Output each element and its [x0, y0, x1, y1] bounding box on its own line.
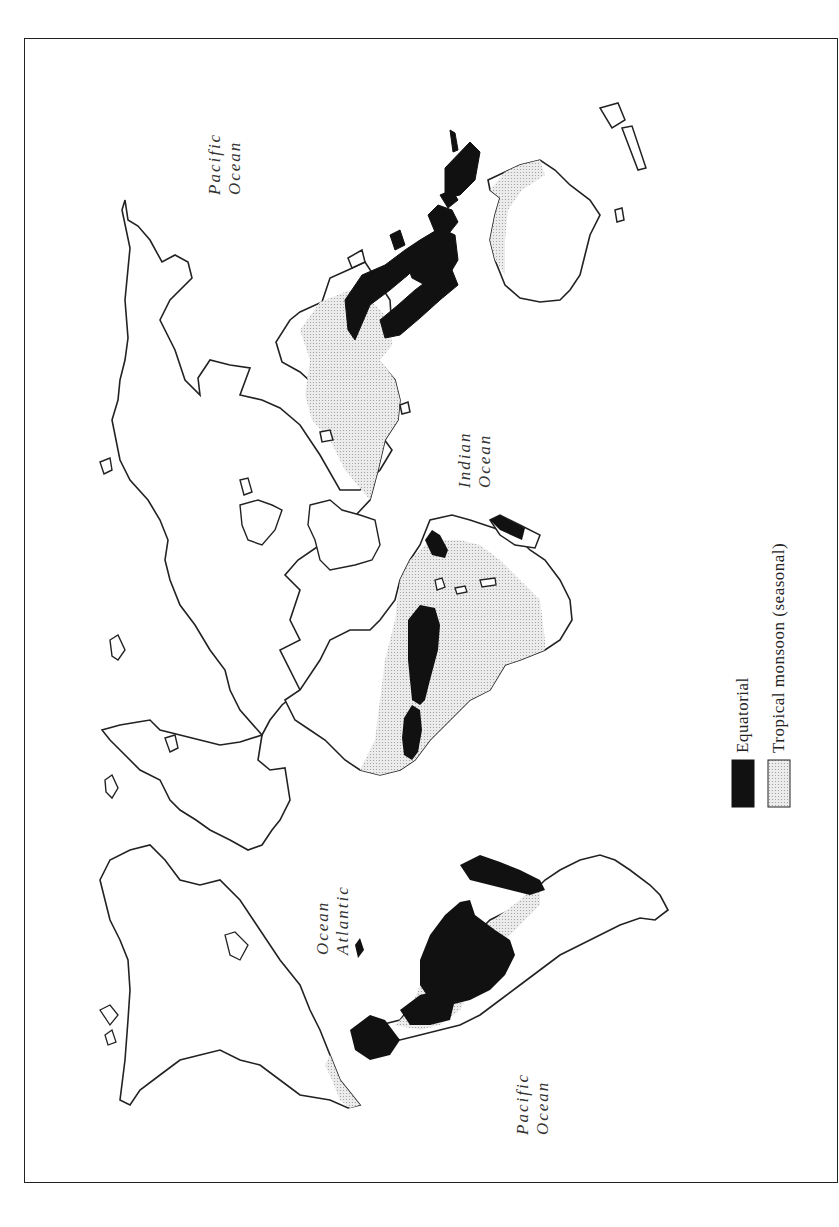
- label-line: Indian: [455, 432, 475, 488]
- legend-label-monsoon: Tropical monsoon (seasonal): [769, 543, 789, 753]
- label-line: Pacific: [513, 1073, 533, 1135]
- label-line: Ocean: [313, 885, 333, 955]
- label-line: Pacific: [205, 133, 225, 195]
- new-zealand-south: [622, 126, 646, 170]
- new-zealand-north: [600, 103, 625, 128]
- ocean-label-pacific-east: Pacific Ocean: [205, 133, 245, 195]
- tasmania: [615, 208, 624, 222]
- label-line: Ocean: [533, 1073, 553, 1135]
- label-line: Atlantic: [333, 885, 353, 955]
- ocean-label-atlantic: Ocean Atlantic: [313, 885, 353, 955]
- legend-swatch-monsoon: [768, 760, 790, 807]
- legend-swatch-equatorial: [732, 760, 754, 807]
- se-asia-equatorial: [345, 130, 480, 340]
- british-isles: [105, 775, 118, 798]
- label-line: Ocean: [475, 432, 495, 488]
- ocean-label-pacific-west: Pacific Ocean: [513, 1073, 553, 1135]
- arabian-peninsula: [308, 500, 380, 570]
- legend-label-equatorial: Equatorial: [733, 677, 753, 753]
- world-map: [0, 0, 839, 1227]
- ocean-label-indian: Indian Ocean: [455, 432, 495, 488]
- label-line: Ocean: [225, 133, 245, 195]
